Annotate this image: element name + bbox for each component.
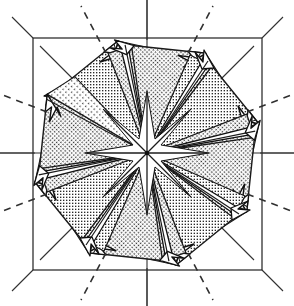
pinwheel-figure bbox=[0, 0, 294, 306]
figure-container: Eightfold pinwheel tiling diagram Black … bbox=[0, 0, 294, 306]
center-point bbox=[145, 151, 149, 155]
